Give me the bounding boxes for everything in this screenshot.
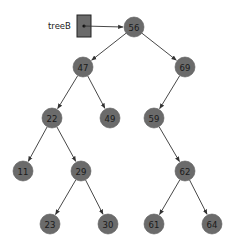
node-value: 59 xyxy=(149,114,160,124)
tree-node: 11 xyxy=(13,161,33,181)
tree-edge xyxy=(28,127,47,162)
tree-pointer: treeB xyxy=(48,15,123,37)
node-value: 69 xyxy=(180,63,191,73)
tree-edge xyxy=(160,180,180,215)
tree-edge xyxy=(58,76,78,109)
node-value: 56 xyxy=(129,23,140,33)
node-value: 30 xyxy=(103,220,114,230)
tree-edge xyxy=(56,180,76,215)
tree-node: 62 xyxy=(175,161,195,181)
bst-diagram: treeB 56476922495911296223306164 xyxy=(0,0,231,248)
tree-edge xyxy=(88,76,105,108)
tree-edge xyxy=(92,33,126,60)
tree-edge xyxy=(190,180,207,214)
node-value: 62 xyxy=(180,167,191,177)
tree-edge xyxy=(160,76,180,109)
tree-edge xyxy=(142,33,176,60)
tree-node: 30 xyxy=(98,214,118,234)
node-value: 47 xyxy=(78,63,89,73)
tree-node: 22 xyxy=(42,108,62,128)
tree-node: 59 xyxy=(144,108,164,128)
tree-node: 49 xyxy=(100,108,120,128)
tree-edge xyxy=(159,127,179,162)
node-value: 49 xyxy=(105,114,116,124)
tree-nodes: 56476922495911296223306164 xyxy=(13,17,222,234)
tree-node: 56 xyxy=(124,17,144,37)
node-value: 29 xyxy=(76,167,87,177)
node-value: 22 xyxy=(47,114,58,124)
tree-node: 29 xyxy=(71,161,91,181)
tree-node: 61 xyxy=(144,214,164,234)
node-value: 61 xyxy=(149,220,160,230)
pointer-label: treeB xyxy=(48,21,71,31)
tree-node: 64 xyxy=(202,214,222,234)
node-value: 11 xyxy=(18,167,29,177)
tree-node: 47 xyxy=(73,57,93,77)
node-value: 64 xyxy=(207,220,218,230)
tree-edge xyxy=(86,180,103,214)
node-value: 23 xyxy=(45,220,56,230)
tree-edge xyxy=(57,127,76,162)
tree-node: 23 xyxy=(40,214,60,234)
tree-node: 69 xyxy=(175,57,195,77)
